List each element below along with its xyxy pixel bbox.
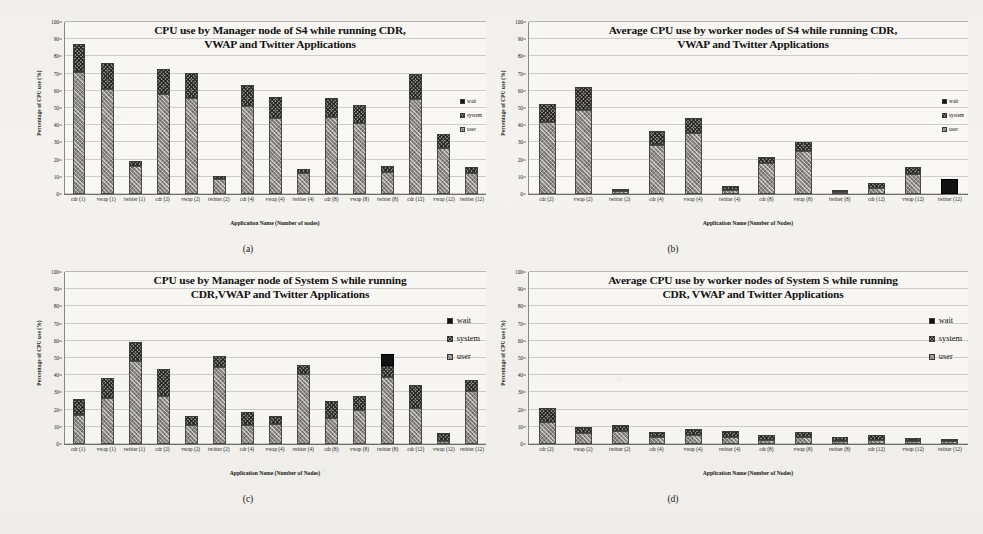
x-axis-title-d: Application Name (Number of Nodes) — [528, 470, 968, 476]
bar-segment-system — [241, 85, 254, 107]
legend-label: system — [939, 334, 962, 343]
bar-segment-system — [269, 97, 282, 119]
stacked-bar[interactable] — [539, 408, 556, 444]
stacked-bar[interactable] — [758, 435, 775, 444]
y-axis-tick-mark — [59, 56, 62, 57]
x-axis-tick-label: twitter (8) — [374, 196, 402, 202]
y-axis-tick-mark — [523, 375, 526, 376]
legend-c: waitsystemuser — [447, 316, 480, 361]
stacked-bar[interactable] — [157, 369, 170, 444]
stacked-bar[interactable] — [297, 169, 310, 194]
y-axis-tick-mark — [59, 90, 62, 91]
bar-segment-system — [381, 366, 394, 377]
stacked-bar[interactable] — [73, 399, 86, 444]
legend-swatch-system-icon — [460, 113, 465, 118]
stacked-bar[interactable] — [129, 161, 142, 194]
legend-swatch-wait-icon — [447, 318, 453, 324]
stacked-bar[interactable] — [868, 183, 885, 194]
stacked-bar[interactable] — [213, 176, 226, 194]
stacked-bar[interactable] — [832, 190, 849, 194]
legend-swatch-user-icon — [447, 354, 453, 360]
bar-segment-system — [649, 131, 666, 145]
bar-segment-user — [325, 117, 338, 194]
stacked-bar[interactable] — [185, 73, 198, 194]
stacked-bar[interactable] — [832, 437, 849, 444]
x-axis-tick-label: cdr (8) — [748, 196, 785, 202]
chart-title-c: CPU use by Manager node of System S whil… — [76, 274, 484, 301]
chart-title-d-line1: Average CPU use by worker nodes of Syste… — [540, 274, 966, 288]
x-axis-tick-label: cdr (4) — [638, 446, 675, 452]
y-axis-tick-mark — [59, 142, 62, 143]
stacked-bar[interactable] — [905, 167, 922, 194]
stacked-bar[interactable] — [795, 432, 812, 444]
bar-segment-system — [409, 74, 422, 100]
stacked-bar[interactable] — [905, 438, 922, 444]
stacked-bar[interactable] — [269, 97, 282, 194]
stacked-bar[interactable] — [649, 131, 666, 194]
y-axis-tick-mark — [523, 409, 526, 410]
stacked-bar[interactable] — [297, 365, 310, 444]
bar-segment-system — [73, 399, 86, 414]
stacked-bar[interactable] — [437, 134, 450, 194]
bar-segment-user — [241, 425, 254, 444]
stacked-bar[interactable] — [381, 166, 394, 194]
x-axis-tick-label: cdr (2) — [148, 196, 176, 202]
stacked-bar[interactable] — [409, 385, 422, 444]
stacked-bar[interactable] — [325, 98, 338, 194]
stacked-bar[interactable] — [941, 179, 958, 194]
stacked-bar[interactable] — [353, 396, 366, 444]
bar-segment-user — [353, 123, 366, 194]
legend-item-wait: wait — [460, 98, 482, 104]
y-axis-tick-mark — [523, 426, 526, 427]
stacked-bar[interactable] — [685, 118, 702, 194]
stacked-bar[interactable] — [539, 104, 556, 194]
y-axis-tick-mark — [523, 159, 526, 160]
y-axis-tick-mark — [523, 272, 526, 273]
stacked-bar[interactable] — [437, 433, 450, 444]
stacked-bar[interactable] — [758, 157, 775, 194]
stacked-bar[interactable] — [101, 63, 114, 194]
bar-segment-user — [685, 133, 702, 194]
stacked-bar[interactable] — [612, 425, 629, 444]
x-axis-tick-label: cdr (4) — [233, 196, 261, 202]
legend-label: system — [457, 334, 480, 343]
stacked-bar[interactable] — [649, 432, 666, 444]
stacked-bar[interactable] — [722, 186, 739, 194]
stacked-bar[interactable] — [465, 380, 478, 444]
stacked-bar[interactable] — [353, 105, 366, 194]
x-axis-tick-label: twitter (12) — [458, 446, 486, 452]
y-axis-tick-mark — [59, 358, 62, 359]
stacked-bar[interactable] — [129, 342, 142, 444]
stacked-bar[interactable] — [575, 87, 592, 194]
stacked-bar[interactable] — [101, 378, 114, 444]
bar-segment-system — [795, 142, 812, 151]
stacked-bar[interactable] — [241, 412, 254, 444]
stacked-bar[interactable] — [381, 354, 394, 444]
stacked-bar[interactable] — [325, 401, 338, 444]
stacked-bar[interactable] — [795, 142, 812, 194]
stacked-bar[interactable] — [185, 416, 198, 444]
stacked-bar[interactable] — [213, 356, 226, 444]
bar-segment-user — [832, 192, 849, 194]
x-axis-tick-label: cdr (2) — [148, 446, 176, 452]
stacked-bar[interactable] — [685, 429, 702, 444]
stacked-bar[interactable] — [269, 416, 282, 444]
stacked-bar[interactable] — [722, 431, 739, 444]
stacked-bar[interactable] — [73, 44, 86, 194]
x-axis-tick-label: twitter (4) — [711, 446, 748, 452]
chart-title-d-line2: CDR, VWAP and Twitter Applications — [540, 288, 966, 302]
stacked-bar[interactable] — [409, 74, 422, 194]
bar-segment-system — [905, 167, 922, 174]
stacked-bar[interactable] — [157, 69, 170, 194]
stacked-bar[interactable] — [941, 439, 958, 444]
stacked-bar[interactable] — [241, 85, 254, 194]
x-axis-tick-label: vwap (1) — [92, 446, 120, 452]
bar-segment-wait — [381, 354, 394, 366]
legend-swatch-user-icon — [929, 354, 935, 360]
stacked-bar[interactable] — [465, 167, 478, 195]
stacked-bar[interactable] — [575, 427, 592, 444]
stacked-bar[interactable] — [612, 189, 629, 194]
x-axis-tick-label: vwap (8) — [785, 446, 822, 452]
stacked-bar[interactable] — [868, 435, 885, 444]
x-axis-labels-d: cdr (2)vwap (2)twitter (2)cdr (4)vwap (4… — [528, 446, 968, 452]
